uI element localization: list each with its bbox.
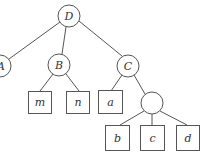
leaf-b: b (106, 126, 130, 151)
node-unlabeled (141, 92, 163, 114)
leaf-b-label: b (114, 132, 121, 145)
leaf-n-label: n (74, 96, 81, 109)
leaf-c-label: c (149, 132, 155, 145)
edge-c-e (134, 75, 145, 94)
leaf-m-label: m (35, 96, 45, 109)
edge-c-a (111, 75, 122, 91)
node-c-upper: C (117, 55, 139, 77)
node-a-upper-label: A (0, 60, 5, 73)
nodes-layer: D A B C m n a (0, 5, 200, 151)
node-d-label: D (64, 10, 74, 23)
edge-d-c (79, 21, 122, 56)
node-b-upper-label: B (54, 59, 63, 72)
leaf-d-label: d (184, 132, 191, 145)
edge-d-a (9, 22, 60, 59)
leaf-m: m (29, 92, 52, 114)
leaf-d: d (177, 126, 200, 151)
edge-d-b (62, 27, 66, 54)
leaf-n: n (67, 92, 90, 114)
tree-diagram: D A B C m n a (0, 0, 202, 156)
edge-b-n (66, 74, 79, 91)
edge-b-m (40, 74, 53, 91)
edge-e-d (160, 111, 187, 125)
leaf-a-label: a (107, 96, 114, 109)
leaf-c: c (141, 126, 165, 151)
node-unlabeled-circle (141, 92, 163, 114)
leaf-a: a (99, 91, 123, 114)
node-d: D (58, 5, 80, 27)
edge-e-b (120, 111, 144, 125)
node-b-upper: B (48, 54, 70, 76)
node-c-upper-label: C (124, 60, 133, 73)
